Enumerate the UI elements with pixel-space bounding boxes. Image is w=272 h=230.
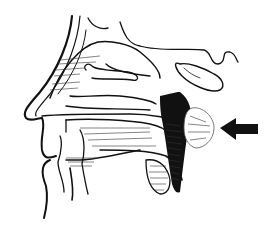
pharynx — [100, 92, 191, 194]
palate — [42, 114, 180, 150]
highlighted-mass — [184, 108, 214, 148]
anatomy-drawing — [0, 0, 272, 230]
sphenoid-sinus — [176, 63, 223, 91]
nasal-turbinates — [50, 41, 160, 110]
nose-profile — [25, 16, 86, 120]
anatomy-figure — [0, 0, 272, 230]
arrow-icon — [220, 118, 258, 140]
